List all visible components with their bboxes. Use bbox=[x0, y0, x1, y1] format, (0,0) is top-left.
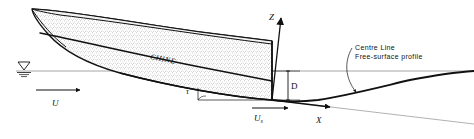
transom-draft-label: D bbox=[291, 81, 298, 91]
separation-speed-label: Us bbox=[254, 113, 264, 124]
figure-container: CHINE Z X D τ bbox=[0, 0, 474, 139]
waterline-symbol-icon bbox=[17, 62, 31, 77]
x-axis-label: X bbox=[315, 115, 322, 125]
transom-draft-dimension-group: D bbox=[272, 71, 300, 100]
separation-speed-subscript: s bbox=[261, 118, 264, 124]
centre-line-callout-group: Centre Line Free-surface profile bbox=[347, 44, 423, 92]
trim-angle-arc bbox=[198, 96, 206, 100]
z-axis-label: Z bbox=[269, 12, 275, 22]
callout-line1: Centre Line bbox=[355, 44, 395, 51]
forward-speed-group: U bbox=[36, 90, 80, 108]
x-axis-group: X bbox=[272, 100, 474, 125]
z-axis-line bbox=[272, 18, 281, 100]
separation-speed-group: Us bbox=[252, 108, 288, 124]
free-surface-profile-curve bbox=[272, 71, 474, 102]
hull-diagram-svg: CHINE Z X D τ bbox=[0, 0, 474, 139]
callout-line2: Free-surface profile bbox=[355, 53, 423, 61]
forward-speed-label: U bbox=[52, 98, 59, 108]
